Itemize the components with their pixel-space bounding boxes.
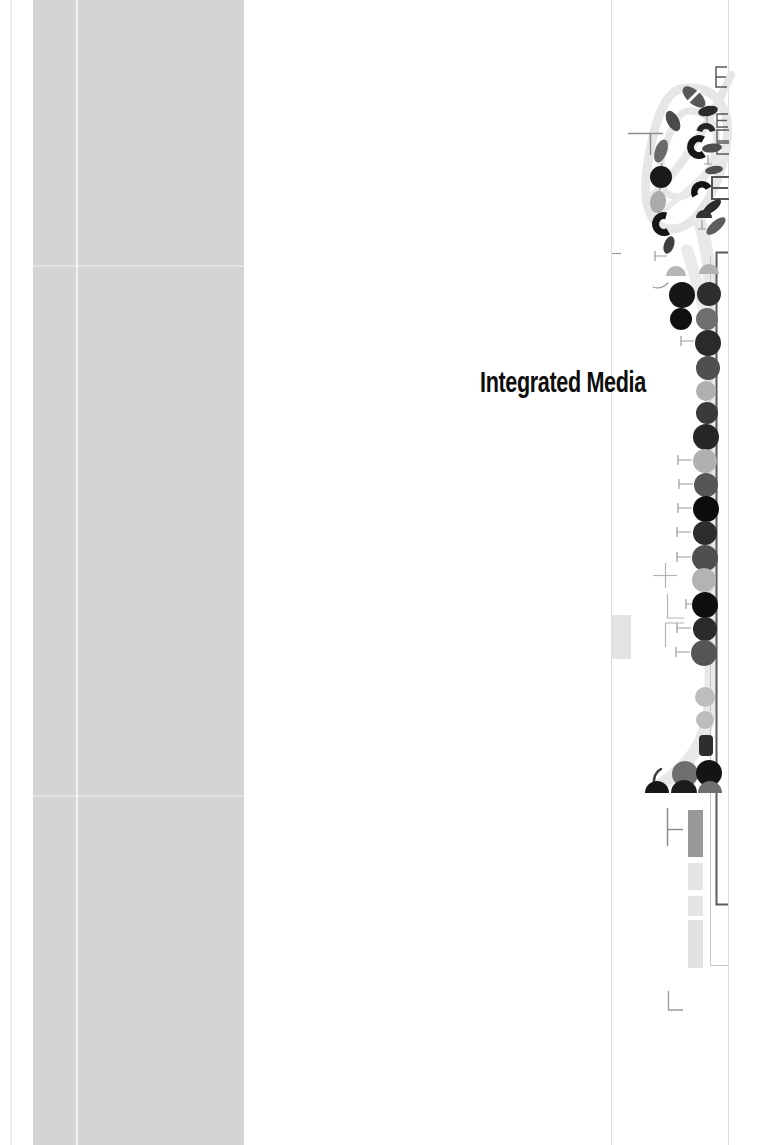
chain-circle [693,496,719,522]
chain-circle [696,356,720,380]
stem-glyph [681,336,694,346]
band-artifact-line [33,265,244,267]
decorative-artwork [0,0,781,1145]
chain-circle [692,545,718,571]
stem-glyph [676,647,690,657]
chain-circle [696,402,718,424]
chain-circle [695,687,715,707]
chain-circle [697,282,721,306]
light-bar [688,896,703,916]
corner-glyph [669,991,684,1010]
chain-circle [693,449,717,473]
chain-circle [696,381,716,401]
stem-glyph [679,479,693,489]
left-gray-band [33,0,244,1145]
stem-glyph [677,552,691,562]
band-white-line [76,0,78,1145]
l-glyph [668,594,685,618]
stem-glyph [678,455,692,465]
blob [650,166,672,188]
chain-circle [696,711,714,729]
chain-circle [695,330,721,356]
gamma-glyph [666,623,685,647]
petal [661,235,677,255]
chain-circle [692,568,716,592]
band-artifact-line [33,795,244,797]
chain-circle [693,424,719,450]
light-bar [688,920,703,968]
chain-circle [669,282,695,308]
document-page: Integrated Media [0,0,781,1145]
stem-glyph [678,503,692,513]
light-bar [688,863,703,890]
medium-gray-bar [688,810,703,857]
half-dome [666,266,686,276]
chain-block [699,735,713,756]
light-gray-block [612,615,631,659]
chain-circle [670,308,692,330]
chain-circle [691,640,717,666]
page-edge-line [10,0,12,1145]
stem-glyph [677,623,691,633]
chain-circle [696,308,718,330]
chain-circle [694,473,718,497]
chain-circle [693,617,717,641]
stem-glyph [686,599,692,609]
chain-circle [693,521,717,545]
curved-stem [653,283,668,288]
stem-glyph [677,527,691,537]
page-title: Integrated Media [480,367,646,397]
chain-circle [692,592,718,618]
